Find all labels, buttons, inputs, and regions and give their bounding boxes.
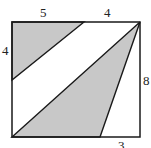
label-right-8: 8	[143, 74, 150, 87]
label-top-right-4: 4	[104, 6, 111, 19]
geometry-figure	[0, 0, 151, 148]
label-top-left-5: 5	[40, 6, 47, 19]
top-left-shaded-triangle	[12, 22, 84, 80]
label-bottom-3: 3	[118, 139, 125, 148]
label-left-4: 4	[2, 44, 9, 57]
